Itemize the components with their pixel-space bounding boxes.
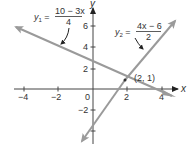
intersection-label: (2, 1): [134, 73, 155, 83]
x-tick-label-2: 2: [124, 92, 129, 102]
eq2-pointer-arrow-icon: [135, 38, 143, 49]
eq1-equals: =: [42, 12, 50, 22]
linear-system-graph: x −4 −2 0 2 4 y 6 4 2 −2 (2, 1) y1 = 10 …: [0, 0, 189, 149]
y-tick-label-4: 4: [83, 42, 88, 52]
eq1-pointer-arrow-icon: [61, 28, 69, 44]
y-tick-label-m2: −2: [78, 105, 88, 115]
eq1-denominator: 4: [66, 17, 71, 27]
x-axis: x −4 −2 0 2 4: [14, 83, 187, 102]
svg-text:y2 =: y2 =: [114, 27, 131, 38]
y-tick-label-6: 6: [83, 21, 88, 31]
y-tick-label-2: 2: [83, 64, 88, 74]
x-axis-label: x: [180, 83, 187, 94]
eq1-numerator: 10 − 3x: [55, 6, 85, 16]
x-tick-label-m4: −4: [18, 92, 28, 102]
x-tick-label-m2: −2: [51, 92, 61, 102]
eq2-equals: =: [123, 27, 131, 37]
y-axis-label: y: [89, 0, 96, 9]
origin-label: 0: [85, 92, 90, 102]
line-y1-end-arrow-icon: [162, 90, 176, 97]
eq2-denominator: 2: [146, 32, 151, 42]
intersection-point: [124, 79, 127, 82]
y-axis: y 6 4 2 −2: [78, 0, 96, 144]
eq2-numerator: 4x − 6: [137, 21, 162, 31]
svg-text:y1 =: y1 =: [33, 12, 50, 23]
